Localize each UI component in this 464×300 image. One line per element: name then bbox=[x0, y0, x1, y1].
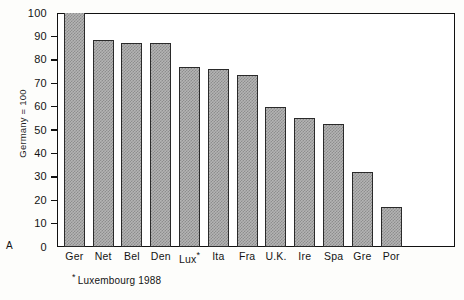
bar-spa bbox=[323, 124, 344, 247]
x-label-text: Lux bbox=[179, 253, 197, 265]
panel-letter: A bbox=[6, 240, 13, 251]
y-tick-label: 60 bbox=[34, 101, 51, 112]
bar-fra bbox=[237, 75, 258, 247]
bar-ger bbox=[64, 13, 85, 247]
x-label-por: Por bbox=[377, 250, 406, 262]
footnote-text: Luxembourg 1988 bbox=[78, 275, 162, 286]
bar-slot bbox=[204, 13, 233, 247]
y-tick-label: 70 bbox=[34, 78, 51, 89]
x-label-ire: Ire bbox=[290, 250, 319, 262]
x-label-ita: Ita bbox=[204, 250, 233, 262]
y-tick-label: 90 bbox=[34, 31, 51, 42]
bar-slot bbox=[377, 13, 406, 247]
y-axis-ticks: 0102030405060708090100 bbox=[0, 0, 57, 260]
x-label-lux: Lux* bbox=[175, 250, 204, 265]
x-label-den: Den bbox=[146, 250, 175, 262]
bar-slot bbox=[89, 13, 118, 247]
y-tick-label: 30 bbox=[34, 171, 51, 182]
bar-gre bbox=[352, 172, 373, 247]
y-tick-label: 40 bbox=[34, 148, 51, 159]
y-tick-label: 50 bbox=[34, 125, 51, 136]
y-tick-label: 0 bbox=[41, 242, 51, 253]
x-axis-labels: GerNetBelDenLux*ItaFraU.K.IreSpaGrePor bbox=[57, 250, 455, 270]
y-tick-label: 80 bbox=[34, 54, 51, 65]
x-label-bel: Bel bbox=[118, 250, 147, 262]
x-label-ger: Ger bbox=[60, 250, 89, 262]
bar-slot bbox=[348, 13, 377, 247]
bar-lux bbox=[179, 67, 200, 247]
bar-slot bbox=[262, 13, 291, 247]
bar-ire bbox=[294, 118, 315, 247]
y-tick-label: 20 bbox=[34, 195, 51, 206]
bar-slot bbox=[146, 13, 175, 247]
y-tick-label: 10 bbox=[34, 218, 51, 229]
footnote-asterisk: * bbox=[72, 272, 76, 282]
x-label-asterisk: * bbox=[197, 250, 201, 260]
bar-por bbox=[381, 207, 402, 247]
bar-net bbox=[93, 40, 114, 247]
bar-slot bbox=[319, 13, 348, 247]
x-label-uk: U.K. bbox=[262, 250, 291, 262]
bar-slot bbox=[290, 13, 319, 247]
bar-slot bbox=[175, 13, 204, 247]
bar-slot bbox=[60, 13, 89, 247]
bar-slot bbox=[233, 13, 262, 247]
x-label-spa: Spa bbox=[319, 250, 348, 262]
bar-series bbox=[57, 13, 455, 247]
x-label-gre: Gre bbox=[348, 250, 377, 262]
x-label-net: Net bbox=[89, 250, 118, 262]
chart-footnote: *Luxembourg 1988 bbox=[72, 272, 161, 286]
bar-ita bbox=[208, 69, 229, 247]
y-tick-label: 100 bbox=[28, 8, 51, 19]
chart-page: Germany = 100 0102030405060708090100 A G… bbox=[0, 0, 464, 300]
x-label-fra: Fra bbox=[233, 250, 262, 262]
bar-den bbox=[150, 43, 171, 247]
bar-bel bbox=[121, 43, 142, 247]
bar-uk bbox=[265, 107, 286, 247]
bar-slot bbox=[118, 13, 147, 247]
